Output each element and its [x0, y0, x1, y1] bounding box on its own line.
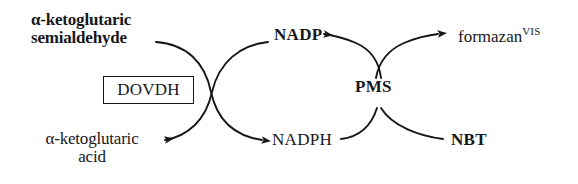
- arc-nadph-to-pms: [341, 108, 377, 139]
- label-nadp: NADP: [274, 26, 322, 44]
- label-nadph: NADPH: [272, 131, 332, 149]
- label-product-line2: acid: [26, 148, 158, 166]
- label-substrate-line2: semialdehyde: [31, 29, 131, 47]
- label-substrate-line1: α-ketoglutaric: [31, 10, 131, 29]
- label-formazan-superscript: VIS: [522, 25, 540, 37]
- label-nbt: NBT: [451, 131, 487, 149]
- label-formazan: formazanVIS: [458, 26, 541, 45]
- label-pms: PMS: [355, 78, 392, 96]
- arc-pms-to-nadp: [324, 34, 381, 78]
- label-substrate-semialdehyde: α-ketoglutaric semialdehyde: [31, 11, 131, 46]
- reaction-scheme-diagram: α-ketoglutaric semialdehyde DOVDH α-keto…: [0, 0, 578, 184]
- enzyme-label: DOVDH: [117, 80, 179, 100]
- label-product-line1: α-ketoglutaric: [46, 129, 139, 148]
- enzyme-box: DOVDH: [103, 76, 194, 104]
- label-product-ketoglutaric-acid: α-ketoglutaric acid: [26, 130, 158, 165]
- label-formazan-text: formazan: [458, 27, 522, 46]
- arc-pms-to-formazan: [376, 34, 438, 78]
- arc-nbt-to-pms: [381, 108, 443, 139]
